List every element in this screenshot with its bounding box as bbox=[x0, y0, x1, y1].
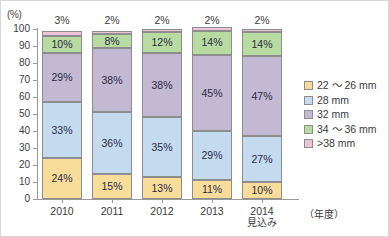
y-axis-tick: 30 bbox=[1, 142, 37, 154]
legend-label: 32 mm bbox=[317, 109, 349, 120]
bar-top-label: 2% bbox=[136, 14, 188, 26]
bar-stack: 13%35%38%12% bbox=[142, 29, 182, 199]
y-axis-tick: 0 bbox=[1, 193, 37, 205]
legend-item[interactable]: 22 ～ 26 mm bbox=[304, 79, 377, 92]
bar-top-label: 3% bbox=[36, 14, 88, 26]
bar-segment-label: 10% bbox=[51, 39, 72, 50]
x-axis-label: 2014見込み bbox=[230, 205, 294, 229]
bar-group[interactable]: 13%35%38%12%2% bbox=[142, 29, 182, 199]
bar-segment[interactable] bbox=[142, 29, 182, 32]
y-axis-tick: 80 bbox=[1, 57, 37, 69]
legend-label: 22 ～ 26 mm bbox=[317, 80, 377, 91]
bar-top-label: 2% bbox=[236, 14, 288, 26]
bar-segment[interactable]: 13% bbox=[142, 177, 182, 199]
legend-swatch-icon bbox=[304, 110, 313, 119]
legend-swatch-icon bbox=[304, 125, 313, 134]
y-axis-tick-label: 100 bbox=[13, 23, 30, 35]
bar-segment-label: 45% bbox=[201, 88, 222, 99]
legend-swatch-icon bbox=[304, 96, 313, 105]
y-axis-tick-label: 80 bbox=[19, 57, 30, 69]
x-axis-line bbox=[37, 199, 299, 200]
y-axis-tick-label: 0 bbox=[24, 193, 30, 205]
bar-segment-label: 38% bbox=[101, 75, 122, 86]
bar-segment[interactable]: 27% bbox=[242, 136, 282, 182]
y-axis-tick-label: 20 bbox=[19, 159, 30, 171]
bar-segment[interactable]: 14% bbox=[192, 31, 232, 55]
bar-segment-label: 47% bbox=[251, 91, 272, 102]
bar-top-label: 2% bbox=[186, 14, 238, 26]
bar-stack: 11%29%45%14% bbox=[192, 29, 232, 199]
bar-segment[interactable]: 38% bbox=[92, 48, 132, 113]
x-axis-label-note: 見込み bbox=[230, 217, 294, 229]
bar-group[interactable]: 15%36%38%8%2% bbox=[92, 29, 132, 199]
y-axis-tick: 40 bbox=[1, 125, 37, 137]
x-axis-unit-label: （年度） bbox=[304, 206, 344, 221]
bar-segment-label: 10% bbox=[251, 185, 272, 196]
legend-item[interactable]: 32 mm bbox=[304, 108, 377, 121]
bar-segment[interactable]: 38% bbox=[142, 53, 182, 118]
bar-segment[interactable]: 47% bbox=[242, 56, 282, 136]
x-axis-label-year: 2011 bbox=[101, 205, 124, 217]
bar-segment-label: 12% bbox=[151, 37, 172, 48]
bar-group[interactable]: 11%29%45%14%2% bbox=[192, 29, 232, 199]
bar-segment[interactable]: 15% bbox=[92, 174, 132, 200]
bar-group[interactable]: 24%33%29%10%3% bbox=[42, 29, 82, 199]
x-axis-label-year: 2014 bbox=[250, 205, 273, 217]
bar-segment-label: 13% bbox=[151, 183, 172, 194]
bar-segment-label: 35% bbox=[151, 142, 172, 153]
y-axis-tick-label: 90 bbox=[19, 40, 30, 52]
bar-segment-label: 8% bbox=[104, 36, 119, 47]
bar-segment[interactable]: 11% bbox=[192, 180, 232, 199]
bar-segment-label: 27% bbox=[251, 154, 272, 165]
x-axis-tick-mark bbox=[62, 199, 63, 203]
bar-segment[interactable]: 36% bbox=[92, 112, 132, 173]
bar-segment-label: 14% bbox=[251, 39, 272, 50]
bar-segment[interactable]: 29% bbox=[42, 53, 82, 102]
bar-segment[interactable]: 8% bbox=[92, 34, 132, 48]
y-axis-tick-label: 10 bbox=[19, 176, 30, 188]
bar-segment-label: 11% bbox=[202, 184, 222, 195]
y-axis-tick: 50 bbox=[1, 108, 37, 120]
legend-item[interactable]: 34 ～ 36 mm bbox=[304, 123, 377, 136]
bar-segment-label: 29% bbox=[51, 72, 72, 83]
bar-segment[interactable]: 10% bbox=[242, 182, 282, 199]
bar-segment[interactable] bbox=[92, 31, 132, 34]
bar-segment[interactable] bbox=[42, 31, 82, 36]
bar-segment-label: 24% bbox=[51, 173, 72, 184]
bar-segment-label: 15% bbox=[101, 181, 122, 192]
bar-segment-label: 36% bbox=[101, 138, 122, 149]
bar-segment[interactable]: 45% bbox=[192, 55, 232, 132]
bar-segment-label: 14% bbox=[201, 37, 222, 48]
y-axis-unit-label: (%) bbox=[7, 9, 22, 20]
bar-segment[interactable] bbox=[192, 27, 232, 30]
legend-label: 34 ～ 36 mm bbox=[317, 124, 377, 135]
y-axis-tick: 20 bbox=[1, 159, 37, 171]
x-axis-tick-mark bbox=[212, 199, 213, 203]
legend-swatch-icon bbox=[304, 139, 313, 148]
bar-segment[interactable]: 10% bbox=[42, 36, 82, 53]
bar-stack: 10%27%47%14% bbox=[242, 29, 282, 199]
bar-segment[interactable]: 29% bbox=[192, 131, 232, 180]
bar-segment[interactable]: 24% bbox=[42, 158, 82, 199]
bar-segment[interactable]: 35% bbox=[142, 117, 182, 177]
x-axis-label-year: 2012 bbox=[150, 205, 173, 217]
legend-item[interactable]: >38 mm bbox=[304, 137, 377, 150]
x-axis-tick-mark bbox=[162, 199, 163, 203]
bar-segment[interactable] bbox=[242, 29, 282, 32]
x-axis-tick-mark bbox=[112, 199, 113, 203]
y-axis-tick-label: 70 bbox=[19, 74, 30, 86]
bar-group[interactable]: 10%27%47%14%2% bbox=[242, 29, 282, 199]
bar-segment-label: 33% bbox=[51, 125, 72, 136]
x-axis-tick-mark bbox=[262, 199, 263, 203]
x-axis-label-year: 2010 bbox=[50, 205, 73, 217]
bar-segment[interactable]: 12% bbox=[142, 32, 182, 52]
bar-segment[interactable]: 33% bbox=[42, 102, 82, 158]
bar-segment-label: 38% bbox=[151, 80, 172, 91]
stacked-bar-chart: (%) 1009080706050403020100 24%33%29%10%3… bbox=[0, 0, 389, 237]
bar-stack: 15%36%38%8% bbox=[92, 29, 132, 199]
y-axis-tick: 100 bbox=[1, 23, 37, 35]
legend-item[interactable]: 28 mm bbox=[304, 94, 377, 107]
y-axis-tick-label: 40 bbox=[19, 125, 30, 137]
bar-segment-label: 29% bbox=[201, 150, 222, 161]
bar-segment[interactable]: 14% bbox=[242, 32, 282, 56]
